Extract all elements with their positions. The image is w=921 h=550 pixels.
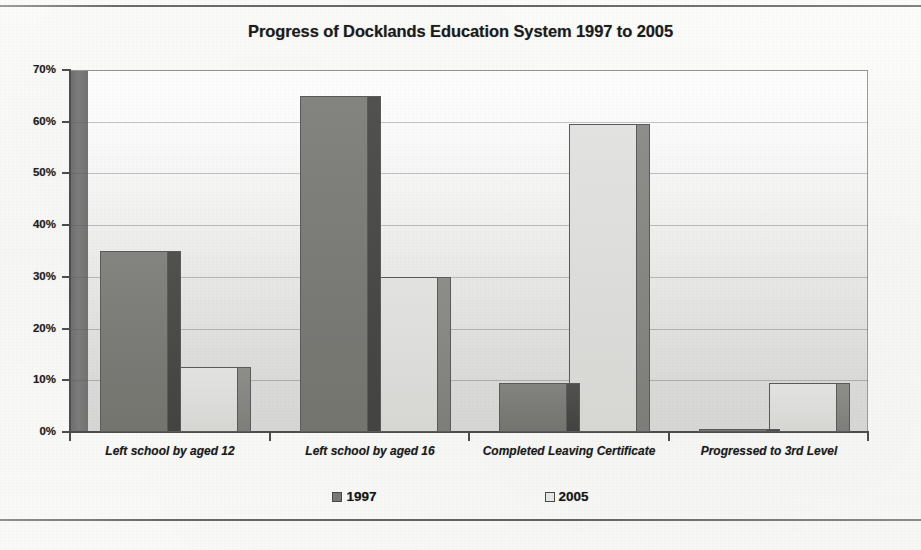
bar-1997-cat2 <box>499 383 567 432</box>
bar-2005-cat3 <box>769 383 837 432</box>
chart-title: Progress of Docklands Education System 1… <box>0 22 921 41</box>
y-axis-label: 70% <box>0 63 56 75</box>
plot-left-wall <box>70 71 88 433</box>
y-tick-40 <box>62 224 70 226</box>
x-tick-0 <box>69 433 71 441</box>
bar-side-face <box>168 251 181 432</box>
legend-label: 1997 <box>346 489 376 504</box>
bar-1997-cat0 <box>100 251 168 432</box>
bar-side-face <box>837 383 850 432</box>
x-axis-category-label: Left school by aged 12 <box>70 444 270 459</box>
legend-swatch-icon <box>545 492 555 502</box>
x-axis-category-label: Progressed to 3rd Level <box>669 444 869 459</box>
y-axis-label: 50% <box>0 166 56 178</box>
y-axis-label: 10% <box>0 373 56 385</box>
bar-front-face <box>699 429 767 432</box>
bar-side-face <box>767 429 780 432</box>
bar-1997-cat3 <box>699 429 767 432</box>
bar-front-face <box>100 251 168 432</box>
bar-front-face <box>499 383 567 432</box>
legend-label: 2005 <box>559 489 589 504</box>
x-tick-1 <box>269 433 271 441</box>
scanned-page: Progress of Docklands Education System 1… <box>0 0 921 550</box>
y-tick-30 <box>62 276 70 278</box>
bar-side-face <box>368 96 381 432</box>
gridline-70 <box>70 70 868 71</box>
legend-item-1997[interactable]: 1997 <box>332 489 376 504</box>
legend-swatch-icon <box>332 492 342 502</box>
legend-item-2005[interactable]: 2005 <box>545 489 589 504</box>
x-tick-2 <box>468 433 470 441</box>
y-axis-label: 40% <box>0 218 56 230</box>
y-axis-label: 0% <box>0 425 56 437</box>
gridline-50 <box>70 173 868 174</box>
bar-1997-cat1 <box>300 96 368 432</box>
x-axis-category-label: Completed Leaving Certificate <box>469 444 669 459</box>
bar-side-face <box>238 367 251 432</box>
bar-front-face <box>769 383 837 432</box>
gridline-40 <box>70 225 868 226</box>
bar-front-face <box>300 96 368 432</box>
y-axis-label: 20% <box>0 322 56 334</box>
y-tick-10 <box>62 379 70 381</box>
gridline-20 <box>70 329 868 330</box>
page-top-rule <box>0 5 921 7</box>
y-tick-20 <box>62 328 70 330</box>
y-tick-60 <box>62 121 70 123</box>
y-tick-70 <box>62 69 70 71</box>
chart-legend: 19972005 <box>0 489 921 504</box>
gridline-30 <box>70 277 868 278</box>
gridline-60 <box>70 122 868 123</box>
bar-side-face <box>637 124 650 432</box>
bar-side-face <box>567 383 580 432</box>
y-tick-50 <box>62 172 70 174</box>
page-bottom-rule <box>0 519 921 521</box>
y-axis-label: 30% <box>0 270 56 282</box>
x-axis-category-label: Left school by aged 16 <box>270 444 470 459</box>
bar-side-face <box>438 277 451 432</box>
x-tick-4 <box>867 433 869 441</box>
x-tick-3 <box>668 433 670 441</box>
y-axis-label: 60% <box>0 115 56 127</box>
